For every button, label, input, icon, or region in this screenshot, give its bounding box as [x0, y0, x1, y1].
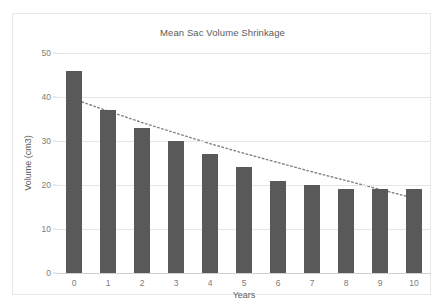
y-tick-label: 10 — [42, 224, 51, 234]
x-axis-line — [57, 273, 431, 274]
plot-area: 01020304050012345678910 — [57, 53, 431, 273]
bar[interactable] — [270, 181, 286, 273]
y-tick-mark — [53, 185, 57, 186]
chart-frame: Mean Sac Volume Shrinkage Volume (cm3) 0… — [12, 13, 431, 295]
y-tick-mark — [53, 53, 57, 54]
x-tick-label: 10 — [394, 278, 434, 288]
bar[interactable] — [66, 71, 82, 273]
y-tick-mark — [53, 141, 57, 142]
bar[interactable] — [372, 189, 388, 273]
y-tick-mark — [53, 273, 57, 274]
bar[interactable] — [304, 185, 320, 273]
y-tick-label: 20 — [42, 180, 51, 190]
bar[interactable] — [134, 128, 150, 273]
gridline — [57, 53, 431, 54]
bar[interactable] — [100, 110, 116, 273]
bar[interactable] — [406, 189, 422, 273]
y-tick-label: 50 — [42, 48, 51, 58]
bar[interactable] — [168, 141, 184, 273]
gridline — [57, 97, 431, 98]
chart-title: Mean Sac Volume Shrinkage — [13, 27, 432, 38]
y-tick-mark — [53, 229, 57, 230]
bar[interactable] — [338, 189, 354, 273]
y-tick-label: 0 — [46, 268, 51, 278]
bar[interactable] — [236, 167, 252, 273]
y-tick-label: 40 — [42, 92, 51, 102]
bar[interactable] — [202, 154, 218, 273]
y-axis-label-text: Volume (cm3) — [23, 135, 33, 191]
y-tick-mark — [53, 97, 57, 98]
x-axis-label: Years — [57, 290, 431, 300]
y-tick-label: 30 — [42, 136, 51, 146]
y-axis-label: Volume (cm3) — [21, 53, 35, 273]
